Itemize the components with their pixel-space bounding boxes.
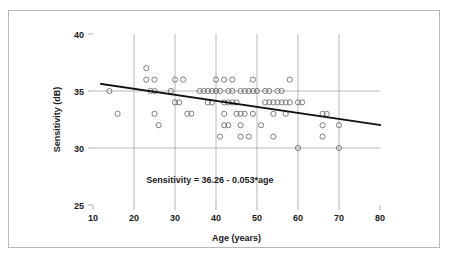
regression-equation-annotation: Sensitivity = 36.26 - 0.053*age [146,175,273,185]
data-point [287,77,292,82]
data-point [144,66,149,71]
data-point [152,111,157,116]
regression-trend-line [101,84,380,125]
data-point [250,77,255,82]
data-point [271,134,276,139]
data-point [156,123,161,128]
data-point [320,123,325,128]
data-point [320,134,325,139]
x-tick-label: 10 [88,213,98,223]
x-tick-label: 20 [129,213,139,223]
data-point [246,134,251,139]
data-point [230,77,235,82]
x-tick-label: 80 [375,213,385,223]
x-tick-label: 60 [293,213,303,223]
x-tick-label: 70 [334,213,344,223]
y-tick-label: 40 [74,30,84,40]
scatter-chart: 102030405060708025303540Age (years)Sensi… [0,0,450,262]
y-tick-label: 35 [74,87,84,97]
x-tick-label: 40 [211,213,221,223]
y-axis-title: Sensitivity (dB) [52,87,62,153]
data-point [181,77,186,82]
data-point [218,134,223,139]
data-points [107,66,342,151]
data-point [259,123,264,128]
data-point [144,77,149,82]
data-point [238,134,243,139]
data-point [250,111,255,116]
data-point [238,123,243,128]
y-tick-label: 25 [74,201,84,211]
y-tick-label: 30 [74,144,84,154]
data-point [115,111,120,116]
data-point [222,111,227,116]
x-tick-label: 30 [170,213,180,223]
data-point [152,77,157,82]
regression-line [101,84,380,125]
x-axis-title: Age (years) [212,233,261,243]
axis-labels: 102030405060708025303540Age (years)Sensi… [52,30,385,244]
chart-page: 102030405060708025303540Age (years)Sensi… [0,0,450,262]
data-point [222,77,227,82]
x-tick-label: 50 [252,213,262,223]
data-point [271,111,276,116]
